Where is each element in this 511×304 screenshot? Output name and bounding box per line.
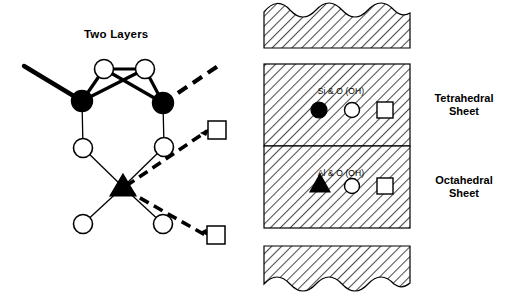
- tetrahedral-sheet-label: Tetrahedral Sheet: [419, 92, 509, 118]
- ball-and-stick-model: [0, 0, 250, 304]
- upper-wavy-block: [264, 3, 410, 48]
- figure-root: Two Layers: [0, 0, 511, 304]
- lower-wavy-block: [264, 246, 410, 291]
- legend-filled-circle-icon: [311, 102, 327, 118]
- atom-square-upper: [208, 121, 226, 139]
- legend-open-square-icon-octahedral: [377, 178, 393, 194]
- atom-hydroxyl-bottom-right: [154, 215, 173, 234]
- atom-silicon-left: [72, 91, 93, 112]
- atom-oxygen-mid-right: [155, 138, 174, 157]
- legend-open-circle-icon-tetrahedral: [345, 103, 360, 118]
- atom-oxygen-top-left: [95, 60, 114, 79]
- atom-hydroxyl-bottom-left: [74, 215, 93, 234]
- atom-square-lower: [207, 226, 225, 244]
- octahedral-legend-caption: Al & O (OH): [306, 168, 376, 178]
- dashed-bond-arrowheads: [200, 128, 210, 237]
- atom-oxygen-mid-left: [74, 139, 93, 158]
- octahedral-sheet-label: Octahedral Sheet: [419, 174, 509, 200]
- legend-open-square-icon-tetrahedral: [377, 102, 393, 118]
- atom-silicon-right: [153, 93, 174, 114]
- legend-open-circle-icon-octahedral: [345, 179, 360, 194]
- vertical-bonds: [82, 101, 164, 148]
- atom-oxygen-top-right: [136, 60, 155, 79]
- sheet-block-diagram: [250, 0, 511, 304]
- tetrahedral-legend-caption: Si & O (OH): [306, 86, 376, 96]
